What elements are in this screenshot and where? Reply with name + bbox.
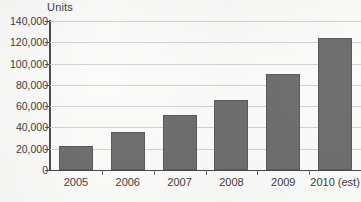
gridline — [50, 85, 361, 86]
gridline — [50, 42, 361, 43]
x-axis-tick-label: 2009 — [271, 176, 295, 188]
y-axis-tick-label: 40,000 — [2, 121, 48, 133]
x-axis-tick-label: 2007 — [167, 176, 191, 188]
x-axis-tick-mark — [102, 170, 103, 175]
y-axis-tick-labels: 020,00040,00060,00080,000100,000120,0001… — [0, 0, 48, 202]
y-axis-tick-label: 140,000 — [2, 15, 48, 27]
bar-chart: Units 020,00040,00060,00080,000100,00012… — [0, 0, 361, 202]
y-axis-tick-label: 80,000 — [2, 79, 48, 91]
y-axis-tick-label: 20,000 — [2, 143, 48, 155]
gridline — [50, 149, 361, 150]
x-axis-tick-label: 2008 — [219, 176, 243, 188]
x-axis-tick-mark — [154, 170, 155, 175]
bar — [318, 38, 352, 170]
gridline — [50, 21, 361, 22]
bar — [214, 100, 248, 170]
x-axis-tick-label: 2010 (est) — [310, 176, 360, 188]
x-axis-tick-mark — [309, 170, 310, 175]
bar — [111, 132, 145, 170]
bar — [266, 74, 300, 170]
y-axis-title: Units — [47, 1, 73, 13]
y-axis-tick-label: 100,000 — [2, 58, 48, 70]
bar — [59, 146, 93, 170]
x-axis-tick-label: 2005 — [64, 176, 88, 188]
y-axis-tick-label: 0 — [2, 164, 48, 176]
y-axis-tick-label: 60,000 — [2, 100, 48, 112]
plot-area — [50, 21, 361, 170]
x-axis-tick-mark — [257, 170, 258, 175]
x-axis-tick-mark — [206, 170, 207, 175]
gridline — [50, 106, 361, 107]
y-axis-tick-label: 120,000 — [2, 36, 48, 48]
bar — [163, 115, 197, 170]
x-axis-tick-labels: 200520062007200820092010 (est) — [50, 176, 361, 196]
gridline — [50, 64, 361, 65]
x-axis-tick-label: 2006 — [116, 176, 140, 188]
x-axis-tick-marks — [50, 170, 361, 175]
gridline — [50, 127, 361, 128]
